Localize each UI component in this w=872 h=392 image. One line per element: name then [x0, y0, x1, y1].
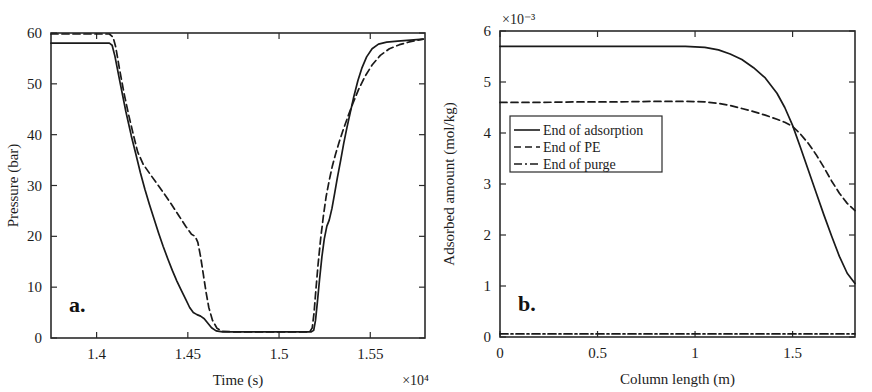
panel-b-legend-label-0: End of adsorption	[543, 123, 643, 138]
panel-b-yticklabel: 1	[484, 278, 492, 294]
panel-b-yticklabel: 6	[484, 23, 492, 39]
panel-a-xticklabel: 1.4	[87, 346, 106, 362]
panel-a-yticklabel: 30	[27, 178, 42, 194]
panel-b-yticklabel: 5	[484, 74, 492, 90]
panel-a-plot-area: 1.41.451.51.550102030405060Time (s)Press…	[5, 25, 429, 389]
panel-a-yticklabel: 50	[27, 76, 42, 92]
panel-a-plot-frame	[51, 33, 425, 338]
panel-b-yticklabel: 4	[484, 125, 492, 141]
panel-b-legend-label-2: End of purge	[543, 157, 616, 172]
panel-b-plot-frame	[500, 31, 855, 337]
panel-a-xticklabel: 1.45	[175, 346, 201, 362]
panel-a-x-exponent: ×10⁴	[402, 373, 429, 388]
panel-b-yticklabel: 2	[484, 227, 492, 243]
panel-b-svg: 00.511.50123456Column length (m)Adsorbed…	[436, 0, 872, 392]
panel-b-panel-label: b.	[518, 291, 536, 316]
panel-b-plot-area: 00.511.50123456Column length (m)Adsorbed…	[441, 12, 855, 388]
panel-a-xlabel: Time (s)	[213, 372, 264, 389]
figure-container: 1.41.451.51.550102030405060Time (s)Press…	[0, 0, 872, 392]
panel-b-xlabel: Column length (m)	[620, 371, 735, 388]
chart-panel-b: 00.511.50123456Column length (m)Adsorbed…	[436, 0, 872, 392]
panel-b-xticklabel: 0	[496, 345, 504, 361]
panel-a-ylabel: Pressure (bar)	[5, 144, 22, 228]
panel-b-yticklabel: 3	[484, 176, 492, 192]
panel-b-xticklabel: 0.5	[588, 345, 607, 361]
panel-a-xticklabel: 1.5	[270, 346, 289, 362]
panel-b-ylabel: Adsorbed amount (mol/kg)	[441, 102, 458, 265]
panel-b-xticklabel: 1	[691, 345, 699, 361]
panel-a-yticklabel: 40	[27, 127, 42, 143]
panel-a-panel-label: a.	[69, 292, 86, 317]
panel-b-xticklabel: 1.5	[783, 345, 802, 361]
panel-a-series-solid-pressure	[51, 39, 423, 332]
panel-a-series-dashed-pressure	[51, 34, 423, 332]
chart-panel-a: 1.41.451.51.550102030405060Time (s)Press…	[0, 0, 436, 392]
panel-a-svg: 1.41.451.51.550102030405060Time (s)Press…	[0, 0, 436, 392]
panel-a-yticklabel: 60	[27, 25, 42, 41]
panel-a-yticklabel: 10	[27, 279, 42, 295]
panel-b-yticklabel: 0	[484, 329, 492, 345]
panel-a-xticklabel: 1.55	[357, 346, 383, 362]
panel-b-y-exponent: ×10⁻³	[502, 12, 535, 27]
panel-a-yticklabel: 0	[35, 330, 43, 346]
panel-b-legend-label-1: End of PE	[543, 140, 601, 155]
panel-a-yticklabel: 20	[27, 228, 42, 244]
